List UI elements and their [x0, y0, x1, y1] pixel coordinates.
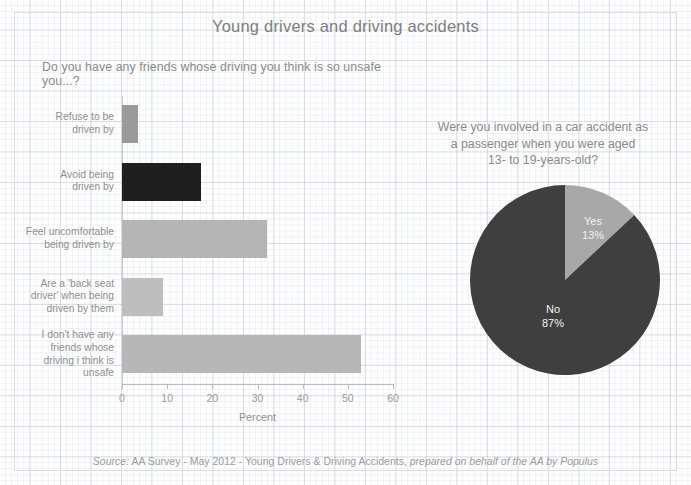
pie-question-line-1: Were you involved in a car accident as	[410, 119, 676, 136]
bar-row: Avoid beingdriven by	[0, 154, 420, 210]
bar-category-label: Feel uncomfortablebeing driven by	[0, 227, 114, 252]
chart-page: Young drivers and driving accidents Do y…	[0, 0, 691, 485]
bar-category-label: Refuse to bedriven by	[0, 111, 114, 136]
bar-row: Feel uncomfortablebeing driven by	[0, 211, 420, 267]
bar-category-label-line: driver' when being	[0, 291, 114, 304]
x-axis-title: Percent	[122, 411, 393, 423]
pie-chart-question: Were you involved in a car accident as a…	[410, 119, 676, 169]
bar-category-label-line: unsafe	[0, 367, 114, 380]
x-axis-tick	[393, 384, 394, 389]
x-axis-tick	[122, 384, 123, 389]
pie-chart: Yes 13% No 87%	[470, 185, 660, 375]
bar-category-label-line: I don't have any	[0, 329, 114, 342]
bar-category-label-line: being driven by	[0, 239, 114, 252]
bar-category-label-line: Refuse to be	[0, 111, 114, 124]
x-axis-tick	[212, 384, 213, 389]
x-axis-tick	[258, 384, 259, 389]
bar-row: I don't have anyfriends whosedriving i t…	[0, 326, 420, 382]
bar-rect	[122, 278, 163, 316]
source-main: AA Survey - May 2012 - Young Drivers & D…	[129, 455, 410, 467]
bar-category-label: Avoid beingdriven by	[0, 169, 114, 194]
pie-question-line-2: a passenger when you were aged	[410, 136, 676, 153]
x-axis-tick-label: 60	[379, 392, 407, 404]
x-axis-tick-label: 0	[108, 392, 136, 404]
bar-track	[122, 278, 163, 316]
x-axis-tick-label: 40	[289, 392, 317, 404]
x-axis-tick-label: 50	[334, 392, 362, 404]
bar-category-label-line: Avoid being	[0, 169, 114, 182]
bar-category-label-line: driven by them	[0, 303, 114, 316]
source-italic: prepared on behalf of the AA by Populus	[410, 455, 598, 467]
x-axis-tick-label: 30	[244, 392, 272, 404]
bar-track	[122, 220, 267, 258]
bar-category-label-line: friends whose	[0, 342, 114, 355]
bar-row: Refuse to bedriven by	[0, 96, 420, 152]
x-axis-tick	[348, 384, 349, 389]
bar-category-label-line: driven by	[0, 124, 114, 137]
bar-track	[122, 105, 138, 143]
bar-rect	[122, 335, 361, 373]
bar-category-label-line: Are a 'back seat	[0, 278, 114, 291]
pie-svg	[470, 185, 660, 375]
bar-rect	[122, 163, 201, 201]
bar-category-label-line: driven by	[0, 182, 114, 195]
source-note: Source: AA Survey - May 2012 - Young Dri…	[0, 455, 691, 467]
bar-rect	[122, 220, 267, 258]
x-axis-tick-label: 10	[153, 392, 181, 404]
bar-category-label-line: Feel uncomfortable	[0, 227, 114, 240]
bar-track	[122, 163, 201, 201]
bar-category-label: I don't have anyfriends whosedriving i t…	[0, 329, 114, 379]
bar-row: Are a 'back seatdriver' when beingdriven…	[0, 269, 420, 325]
x-axis-tick-label: 20	[198, 392, 226, 404]
pie-question-line-3: 13- to 19-years-old?	[410, 152, 676, 169]
bar-chart-question: Do you have any friends whose driving yo…	[42, 60, 420, 88]
bar-category-label: Are a 'back seatdriver' when beingdriven…	[0, 278, 114, 316]
bar-rect	[122, 105, 138, 143]
source-prefix: Source:	[93, 455, 129, 467]
x-axis-tick	[167, 384, 168, 389]
bar-category-label-line: driving i think is	[0, 354, 114, 367]
bar-chart: Do you have any friends whose driving yo…	[0, 0, 420, 440]
x-axis-tick	[303, 384, 304, 389]
bar-track	[122, 335, 361, 373]
